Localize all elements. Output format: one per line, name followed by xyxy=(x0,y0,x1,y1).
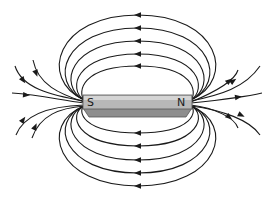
field-arrow-icon xyxy=(19,76,28,85)
field-arrow-icon xyxy=(23,92,30,98)
field-arrow-icon xyxy=(134,157,141,163)
field-arrow-icon xyxy=(32,69,40,77)
field-line-open-north xyxy=(191,93,262,103)
field-arrow-icon xyxy=(134,130,141,136)
field-arrow-icon xyxy=(134,63,141,69)
field-arrow-icon xyxy=(134,183,141,189)
field-loop-top xyxy=(71,41,204,100)
field-arrow-icon xyxy=(134,51,141,57)
field-diagram-svg: S N xyxy=(0,0,278,201)
field-loop-top xyxy=(65,28,210,100)
field-arrow-icon xyxy=(19,115,28,124)
field-line-open-north xyxy=(191,106,260,135)
south-pole-label: S xyxy=(87,96,94,109)
field-line-open-south xyxy=(16,105,84,135)
magnet-highlight xyxy=(84,96,191,100)
field-arrow-icon xyxy=(134,143,141,149)
field-loop-top xyxy=(77,54,199,100)
field-arrow-icon xyxy=(134,170,141,176)
field-arrow-icon xyxy=(134,25,141,31)
field-arrow-icon xyxy=(134,12,141,18)
field-arrow-icon xyxy=(134,38,141,44)
north-pole-label: N xyxy=(177,96,185,109)
bar-magnet: S N xyxy=(83,95,192,117)
magnet-field-diagram: S N xyxy=(0,0,278,201)
